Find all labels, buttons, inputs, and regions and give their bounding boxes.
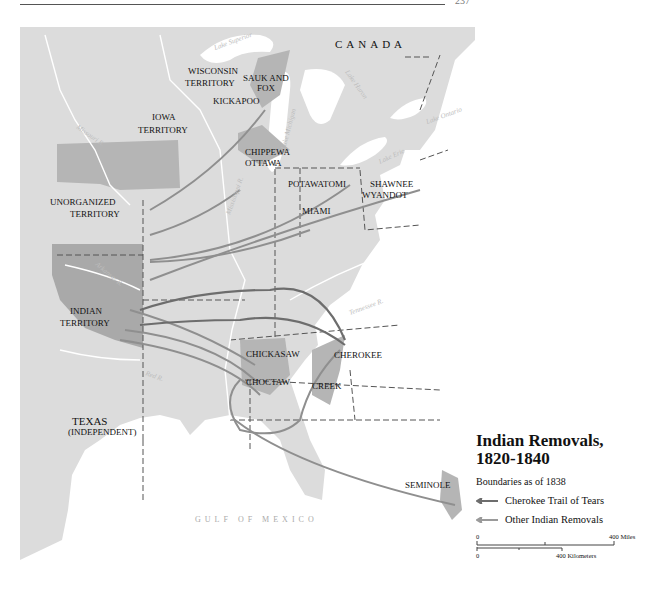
label-iowa: IOWA	[152, 112, 176, 122]
label-creek: CREEK	[312, 381, 342, 391]
label-unorganized-territory: TERRITORY	[70, 209, 120, 219]
label-shawnee: SHAWNEE	[370, 179, 414, 189]
header-rule	[20, 4, 445, 5]
label-wisconsin: WISCONSIN	[188, 66, 239, 76]
label-texas: TEXAS	[72, 415, 107, 427]
label-kickapoo: KICKAPOO	[213, 96, 260, 106]
scale-bar: 0 400 Miles 0 400 Kilometers	[476, 533, 656, 563]
label-potawatomi: POTAWATOMI	[288, 179, 346, 189]
legend-item-trail-of-tears: Cherokee Trail of Tears	[476, 495, 656, 506]
label-wyandot: WYANDOT	[362, 190, 408, 200]
arrow-left-icon	[476, 498, 498, 504]
label-ottawa: OTTAWA	[245, 158, 282, 168]
label-cherokee: CHEROKEE	[334, 350, 382, 360]
label-choctaw: CHOCTAW	[246, 377, 291, 387]
map-title: Indian Removals, 1820-1840	[476, 432, 656, 468]
label-seminole: SEMINOLE	[405, 480, 451, 490]
arrow-left-icon	[476, 517, 498, 523]
label-indian-territory: TERRITORY	[60, 318, 110, 328]
label-sauk-and: SAUK AND	[243, 73, 289, 83]
label-fox: FOX	[257, 83, 276, 93]
map-legend: Indian Removals, 1820-1840 Boundaries as…	[476, 432, 656, 563]
label-tennessee-river: Tennessee R.	[348, 297, 385, 317]
label-canada: CANADA	[335, 38, 406, 50]
label-indian: INDIAN	[70, 306, 102, 316]
label-miami: MIAMI	[302, 206, 331, 216]
label-wisconsin-territory: TERRITORY	[185, 78, 235, 88]
page-number: 237	[455, 0, 470, 6]
label-chickasaw: CHICKASAW	[246, 349, 300, 359]
legend-item-other-removals: Other Indian Removals	[476, 514, 656, 525]
scale-lines	[476, 541, 616, 551]
map-canvas: CANADA WISCONSIN TERRITORY SAUK AND FOX …	[20, 27, 475, 587]
label-gulf-of-mexico: GULF OF MEXICO	[195, 515, 318, 524]
label-unorganized: UNORGANIZED	[50, 197, 116, 207]
label-texas-independent: (INDEPENDENT)	[68, 427, 136, 437]
map-subtitle: Boundaries as of 1838	[476, 476, 656, 487]
label-iowa-territory: TERRITORY	[138, 125, 188, 135]
